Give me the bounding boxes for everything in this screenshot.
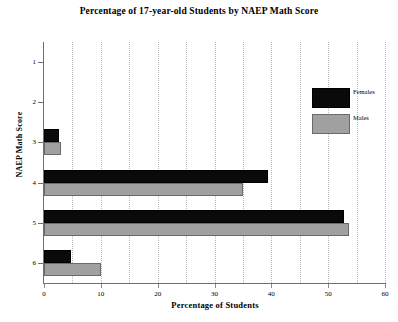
x-tick-mark-0 bbox=[44, 284, 45, 288]
gridline-45 bbox=[300, 42, 301, 283]
y-tick-mark-6 bbox=[38, 263, 44, 264]
legend-item-males[interactable]: Males bbox=[312, 114, 396, 136]
x-tick-label-20: 20 bbox=[143, 290, 173, 298]
gridline-40 bbox=[271, 42, 272, 283]
gridline-20 bbox=[158, 42, 159, 283]
x-axis-title: Percentage of Students bbox=[44, 300, 386, 310]
bar-males-score-6 bbox=[44, 263, 101, 276]
x-tick-mark-50 bbox=[328, 284, 329, 288]
gridline-15 bbox=[129, 42, 130, 283]
legend-label-males: Males bbox=[353, 114, 369, 121]
x-tick-label-0: 0 bbox=[29, 290, 59, 298]
x-tick-label-30: 30 bbox=[200, 290, 230, 298]
x-tick-mark-20 bbox=[158, 284, 159, 288]
x-tick-label-40: 40 bbox=[256, 290, 286, 298]
x-tick-mark-10 bbox=[101, 284, 102, 288]
gridline-55 bbox=[357, 42, 358, 283]
x-tick-mark-30 bbox=[215, 284, 216, 288]
gridline-30 bbox=[215, 42, 216, 283]
chart-title: Percentage of 17-year-old Students by NA… bbox=[0, 6, 398, 16]
y-tick-mark-3 bbox=[38, 142, 44, 143]
chart-legend: FemalesMales bbox=[312, 88, 396, 140]
gridline-25 bbox=[186, 42, 187, 283]
x-tick-mark-40 bbox=[271, 284, 272, 288]
bar-females-score-6 bbox=[44, 250, 71, 263]
y-tick-mark-1 bbox=[38, 62, 44, 63]
bar-females-score-3 bbox=[44, 129, 59, 142]
x-tick-label-10: 10 bbox=[86, 290, 116, 298]
bar-males-score-5 bbox=[44, 223, 349, 236]
y-tick-mark-2 bbox=[38, 102, 44, 103]
y-axis-title: NAEP Math Score bbox=[15, 80, 24, 210]
y-tick-label-1: 1 bbox=[6, 58, 36, 66]
gridline-10 bbox=[101, 42, 102, 283]
legend-swatch-females bbox=[312, 88, 350, 108]
y-tick-label-6: 6 bbox=[6, 259, 36, 267]
gridline-5 bbox=[72, 42, 73, 283]
y-tick-mark-4 bbox=[38, 183, 44, 184]
plot-area bbox=[44, 42, 385, 283]
y-tick-label-5: 5 bbox=[6, 219, 36, 227]
gridline-50 bbox=[328, 42, 329, 283]
x-tick-label-50: 50 bbox=[313, 290, 343, 298]
bar-males-score-4 bbox=[44, 183, 243, 196]
chart-figure: Percentage of 17-year-old Students by NA… bbox=[0, 0, 398, 322]
bar-males-score-3 bbox=[44, 142, 61, 155]
bar-females-score-5 bbox=[44, 210, 344, 223]
legend-swatch-males bbox=[312, 114, 350, 134]
gridline-35 bbox=[243, 42, 244, 283]
gridline-60 bbox=[385, 42, 386, 283]
legend-item-females[interactable]: Females bbox=[312, 88, 396, 110]
legend-label-females: Females bbox=[353, 88, 375, 95]
y-tick-mark-5 bbox=[38, 223, 44, 224]
bar-females-score-4 bbox=[44, 170, 268, 183]
x-tick-mark-60 bbox=[385, 284, 386, 288]
x-tick-label-60: 60 bbox=[370, 290, 398, 298]
